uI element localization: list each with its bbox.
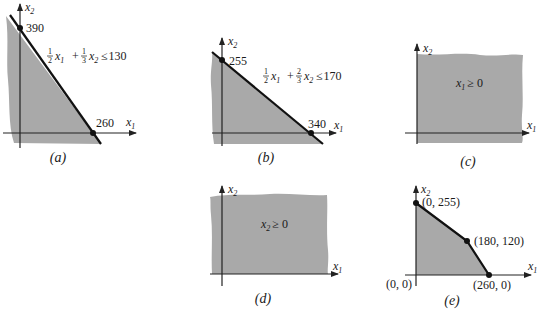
vertex-label-180-120: (180, 120)	[474, 234, 524, 248]
x-axis-label-d: x1	[332, 259, 342, 275]
vertex-point-180-120	[464, 238, 470, 244]
intercept-point-390	[17, 25, 23, 31]
x-axis-label-e: x1	[527, 259, 537, 275]
svg-text:x1: x1	[54, 49, 64, 65]
x-axis-label-a: x1	[125, 115, 135, 131]
caption-a: (a)	[50, 150, 67, 166]
svg-text:2: 2	[48, 56, 52, 65]
x-intercept-label-a: 260	[96, 116, 114, 130]
svg-text:≤170: ≤170	[316, 69, 342, 83]
svg-text:1: 1	[264, 67, 268, 76]
svg-text:+: +	[72, 49, 79, 63]
svg-text:+: +	[287, 69, 294, 83]
svg-text:x2: x2	[303, 69, 313, 85]
shaded-region-c	[417, 54, 523, 143]
svg-text:x2: x2	[88, 49, 98, 65]
svg-text:2: 2	[264, 76, 268, 85]
y-axis-label-a: x2	[24, 0, 34, 16]
x-intercept-label-b: 340	[308, 117, 326, 131]
y-intercept-label-b: 255	[229, 54, 247, 68]
region-label-c: x1≥ 0	[455, 76, 483, 92]
feasible-region-diagram: x2 x1 390 260 1 2 x1 + 1 3 x2 ≤130 (a) x…	[0, 0, 543, 318]
y-axis-label-b: x2	[227, 34, 237, 50]
panel-e: x2 x1 (0, 0) (0, 255) (180, 120) (260, 0…	[386, 182, 537, 309]
svg-text:3: 3	[297, 76, 301, 85]
caption-c: (c)	[460, 154, 476, 170]
svg-text:x1: x1	[270, 69, 280, 85]
intercept-point-255	[219, 57, 225, 63]
panel-c: x2 x1 x1≥ 0 (c)	[405, 41, 536, 170]
caption-b: (b)	[258, 150, 275, 166]
vertex-point-0-255	[413, 200, 419, 206]
y-axis-label-c: x2	[422, 41, 432, 57]
x-axis-label-b: x1	[333, 118, 343, 134]
y-axis-label-d: x2	[227, 182, 237, 198]
svg-text:1: 1	[82, 47, 86, 56]
panel-a: x2 x1 390 260 1 2 x1 + 1 3 x2 ≤130 (a)	[3, 0, 136, 166]
constraint-label-b: 1 2 x1 + 2 3 x2 ≤170	[263, 67, 342, 85]
svg-text:≤130: ≤130	[101, 49, 127, 63]
x-axis-label-c: x1	[526, 118, 536, 134]
vertex-label-origin: (0, 0)	[386, 277, 412, 291]
constraint-label-a: 1 2 x1 + 1 3 x2 ≤130	[47, 47, 127, 65]
caption-d: (d)	[255, 291, 272, 307]
svg-text:1: 1	[48, 47, 52, 56]
vertex-label-260-0: (260, 0)	[473, 278, 511, 292]
y-intercept-label-a: 390	[26, 21, 44, 35]
panel-d: x2 x1 x2≥ 0 (d)	[210, 182, 342, 307]
svg-text:2: 2	[297, 67, 301, 76]
vertex-label-0-255: (0, 255)	[422, 195, 460, 209]
region-label-d: x2≥ 0	[260, 217, 288, 233]
panel-b: x2 x1 255 340 1 2 x1 + 2 3 x2 ≤170 (b)	[211, 34, 344, 166]
shaded-region-d	[210, 194, 328, 274]
svg-text:3: 3	[82, 56, 86, 65]
intercept-point-260	[90, 130, 96, 136]
caption-e: (e)	[444, 293, 460, 309]
